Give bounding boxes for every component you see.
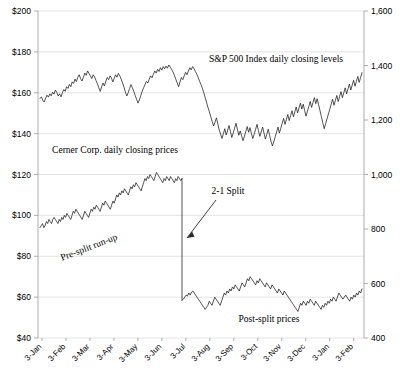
series-line-cerner-postsplit <box>182 277 362 312</box>
x-tick-label: 3-Oct <box>239 342 260 363</box>
annotation-postsplit-label: Post-split prices <box>239 314 300 324</box>
right-axis-ticks: 1,6001,4001,2001,000800600400 <box>364 6 393 343</box>
right-tick-label: 1,200 <box>371 115 393 125</box>
x-tick-label: 3-Nov <box>262 342 283 363</box>
data-series-group <box>40 65 362 311</box>
x-tick-label: 3-Jan <box>23 342 44 363</box>
x-tick-label: 3-Apr <box>95 342 115 362</box>
x-tick-label: 3-Feb <box>46 342 68 364</box>
series-line-cerner-presplit <box>40 172 182 227</box>
left-tick-label: $120 <box>12 170 31 180</box>
x-tick-label: 3-Mar <box>70 342 91 363</box>
x-tick-label: 3-Sep <box>214 342 236 364</box>
x-tick-label: 3-May <box>117 342 139 364</box>
left-tick-label: $40 <box>17 333 31 343</box>
annotation-sp500-label: S&P 500 Index daily closing levels <box>209 54 343 64</box>
chart-container: $200$180$160$140$120$100$80$60$40 1,6001… <box>0 0 407 378</box>
left-tick-label: $160 <box>12 88 31 98</box>
right-tick-label: 1,000 <box>371 170 393 180</box>
x-tick-label: 3-Dec <box>286 342 307 363</box>
split-arrow-shaft <box>187 200 216 238</box>
right-tick-label: 600 <box>371 279 385 289</box>
left-axis-ticks: $200$180$160$140$120$100$80$60$40 <box>12 6 38 343</box>
annotation-cerner-label: Cerner Corp. daily closing prices <box>52 145 178 155</box>
x-tick-label: 3-Aug <box>190 342 211 363</box>
right-tick-label: 800 <box>371 224 385 234</box>
annotation-presplit-label: Pre-split run-up <box>59 232 119 263</box>
left-tick-label: $180 <box>12 47 31 57</box>
left-tick-label: $100 <box>12 210 31 220</box>
right-tick-label: 1,400 <box>371 61 393 71</box>
left-tick-label: $80 <box>17 251 31 261</box>
left-tick-label: $140 <box>12 129 31 139</box>
right-tick-label: 400 <box>371 333 385 343</box>
annotation-split-label: 2-1 Split <box>212 186 245 196</box>
annotations-group: S&P 500 Index daily closing levelsCerner… <box>52 54 343 324</box>
x-tick-label: 3-Feb <box>334 342 356 364</box>
x-tick-label: 3-Jul <box>169 342 188 361</box>
left-tick-label: $60 <box>17 292 31 302</box>
x-tick-label: 3-Jan <box>311 342 332 363</box>
left-tick-label: $200 <box>12 6 31 16</box>
right-tick-label: 1,600 <box>371 6 393 16</box>
x-tick-label: 3-Jun <box>143 342 164 363</box>
chart-svg: $200$180$160$140$120$100$80$60$40 1,6001… <box>0 0 407 378</box>
x-axis-ticks: 3-Jan3-Feb3-Mar3-Apr3-May3-Jun3-Jul3-Aug… <box>23 338 356 364</box>
